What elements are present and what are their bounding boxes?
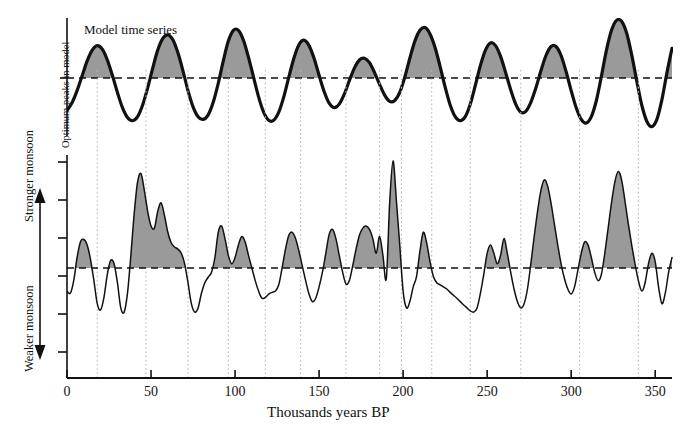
optimum-peaks-annotation: Optimum peaks in model bbox=[60, 28, 72, 148]
weaker-monsoon-label: Weaker monsoon bbox=[22, 262, 36, 372]
x-axis-tick-label: 150 bbox=[309, 384, 330, 399]
x-axis-tick-label: 100 bbox=[225, 384, 246, 399]
panel-title: Model time series bbox=[84, 22, 177, 38]
x-axis-tick-label: 350 bbox=[645, 384, 666, 399]
monsoon-time-series-figure: 050100150200250300350 bbox=[0, 0, 694, 440]
x-axis-tick-label: 300 bbox=[561, 384, 582, 399]
x-axis-tick-label: 200 bbox=[393, 384, 414, 399]
x-axis-label: Thousands years BP bbox=[267, 404, 390, 421]
x-axis-tick-label: 0 bbox=[64, 384, 71, 399]
stronger-monsoon-label: Stronger monsoon bbox=[22, 112, 36, 222]
x-axis-tick-label: 250 bbox=[477, 384, 498, 399]
x-axis-tick-label: 50 bbox=[144, 384, 158, 399]
